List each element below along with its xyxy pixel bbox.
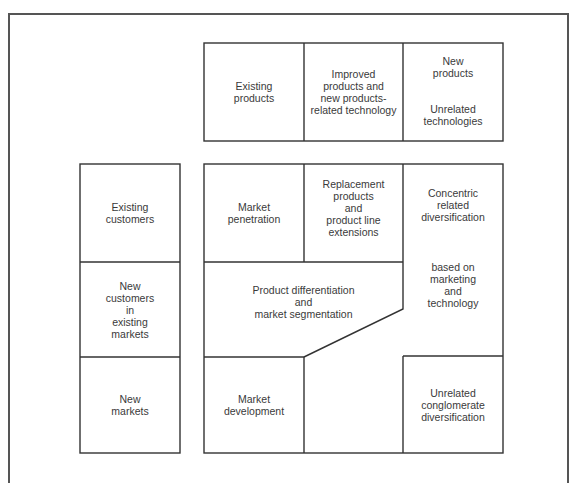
column-header-new-products: New products bbox=[403, 52, 503, 82]
cell-concentric-basis: based on marketing and technology bbox=[403, 255, 503, 315]
label-line: New bbox=[119, 393, 140, 405]
label-line: and bbox=[444, 285, 462, 297]
label-line: Concentric bbox=[428, 187, 478, 199]
label-line: development bbox=[224, 405, 284, 417]
column-header-unrelated-technologies: Unrelated technologies bbox=[403, 100, 503, 130]
label-line: customers bbox=[106, 292, 154, 304]
label-line: technology bbox=[428, 297, 479, 309]
label-line: Improved bbox=[332, 68, 376, 80]
label-line: products bbox=[333, 190, 373, 202]
cell-market-penetration: Market penetration bbox=[204, 164, 304, 262]
label-line: technologies bbox=[424, 115, 483, 127]
label-line: diversification bbox=[421, 211, 485, 223]
row-header-new-markets: New markets bbox=[80, 357, 180, 453]
label-line: customers bbox=[106, 213, 154, 225]
label-line: New bbox=[442, 55, 463, 67]
label-line: markets bbox=[111, 405, 148, 417]
row-header-existing-customers: Existing customers bbox=[80, 164, 180, 262]
label-line: diversification bbox=[421, 411, 485, 423]
label-line: products bbox=[433, 67, 473, 79]
label-line: Existing bbox=[236, 80, 273, 92]
label-line: Market bbox=[238, 201, 270, 213]
column-header-improved-products: Improved products and new products- rela… bbox=[304, 43, 403, 141]
label-line: existing bbox=[112, 316, 148, 328]
label-line: related bbox=[437, 199, 469, 211]
label-line: markets bbox=[111, 328, 148, 340]
cell-replacement-products: Replacement products and product line ex… bbox=[304, 164, 403, 252]
label-line: product line bbox=[326, 214, 380, 226]
cell-market-development: Market development bbox=[204, 357, 304, 453]
label-line: Existing bbox=[112, 201, 149, 213]
label-line: Market bbox=[238, 393, 270, 405]
label-line: and bbox=[295, 296, 313, 308]
label-line: related technology bbox=[311, 104, 397, 116]
label-line: Unrelated bbox=[430, 103, 476, 115]
label-line: Unrelated bbox=[430, 387, 476, 399]
label-line: conglomerate bbox=[421, 399, 485, 411]
label-line: extensions bbox=[328, 226, 378, 238]
column-header-existing-products: Existing products bbox=[204, 43, 304, 141]
cell-unrelated-diversification: Unrelated conglomerate diversification bbox=[403, 356, 503, 453]
label-line: new products- bbox=[321, 92, 387, 104]
label-line: marketing bbox=[430, 273, 476, 285]
label-line: based on bbox=[431, 261, 474, 273]
label-line: in bbox=[126, 304, 134, 316]
row-header-new-customers: New customers in existing markets bbox=[80, 262, 180, 357]
label-line: and bbox=[345, 202, 363, 214]
label-line: products bbox=[234, 92, 274, 104]
label-line: market segmentation bbox=[254, 308, 352, 320]
label-line: products and bbox=[323, 80, 384, 92]
label-line: Product differentiation bbox=[253, 284, 355, 296]
label-line: New bbox=[119, 280, 140, 292]
cell-concentric-diversification: Concentric related diversification bbox=[403, 180, 503, 230]
label-line: penetration bbox=[228, 213, 281, 225]
cell-product-differentiation: Product differentiation and market segme… bbox=[204, 282, 403, 322]
label-line: Replacement bbox=[323, 178, 385, 190]
